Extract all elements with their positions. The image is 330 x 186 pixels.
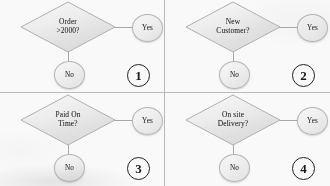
no-node-label: No [65,71,74,79]
decision-diamond[interactable]: New Customer? [185,1,281,53]
no-node[interactable]: No [219,154,250,182]
quadrant-3: Paid On Time? Yes No 3 [0,93,165,186]
no-node-label: No [65,164,74,172]
yes-node[interactable]: Yes [132,107,163,135]
quadrant-number: 4 [292,157,315,180]
no-node-label: No [230,164,239,172]
no-node[interactable]: No [54,154,85,182]
quadrant-number: 1 [127,64,150,87]
quadrant-2: New Customer? Yes No 2 [165,0,330,93]
decision-diamond[interactable]: Order >2000? [20,1,116,53]
quadrant-1: Order >2000? Yes No 1 [0,0,165,93]
quadrant-number: 3 [127,157,150,180]
decision-label: Paid On Time? [20,94,116,146]
yes-node[interactable]: Yes [297,14,328,42]
yes-node[interactable]: Yes [297,107,328,135]
quadrant-number: 2 [292,64,315,87]
yes-node-label: Yes [142,117,153,125]
flowchart-canvas: Order >2000? Yes No 1 New [0,0,330,186]
decision-diamond[interactable]: On site Delivery? [185,94,281,146]
yes-node-label: Yes [307,117,318,125]
decision-label: On site Delivery? [185,94,281,146]
decision-diamond[interactable]: Paid On Time? [20,94,116,146]
decision-label: Order >2000? [20,1,116,53]
no-node[interactable]: No [54,61,85,89]
quadrant-4: On site Delivery? Yes No 4 [165,93,330,186]
yes-node-label: Yes [307,24,318,32]
no-node-label: No [230,71,239,79]
decision-label: New Customer? [185,1,281,53]
yes-node-label: Yes [142,24,153,32]
no-node[interactable]: No [219,61,250,89]
yes-node[interactable]: Yes [132,14,163,42]
